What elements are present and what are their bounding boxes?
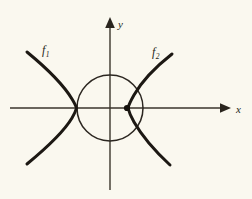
right-hyperbola-branch (128, 54, 172, 165)
y-axis-label: y (117, 18, 123, 30)
diagram-canvas: x y f1 f2 (0, 0, 252, 199)
curve-labels-group: f1 f2 (42, 43, 160, 61)
curve-label-f2-subscript: 2 (156, 52, 160, 61)
figure-container: x y f1 f2 (0, 0, 252, 199)
curve-label-f1: f1 (42, 43, 50, 59)
arrow-up-icon (105, 17, 115, 28)
curve-label-f2: f2 (152, 45, 160, 61)
intersection-point-marker (124, 105, 130, 111)
curve-label-f1-subscript: 1 (46, 50, 50, 59)
x-axis-label: x (235, 103, 241, 115)
arrow-right-icon (220, 103, 231, 113)
